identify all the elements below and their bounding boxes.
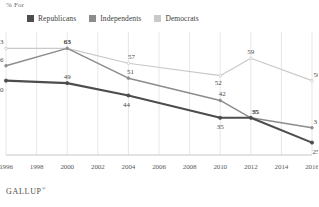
x-tick-label: 1996 [0, 163, 13, 171]
legend-label-independents: Independents [100, 14, 141, 23]
x-tick-label: 2008 [183, 163, 197, 171]
x-tick-label: 2002 [91, 163, 105, 171]
x-tick-label: 2010 [213, 163, 227, 171]
data-point [66, 82, 69, 85]
point-label: 50 [314, 71, 319, 79]
data-point [5, 47, 8, 50]
plot-area: 504944353525566351423531636357525950 [0, 28, 318, 163]
legend-item-democrats[interactable]: Democrats [154, 14, 198, 23]
x-tick-label: 2016 [305, 163, 318, 171]
point-label: 35 [217, 123, 225, 131]
point-label: 59 [247, 48, 255, 56]
point-label: 63 [64, 38, 72, 46]
data-point [219, 74, 222, 77]
x-tick-label: 1998 [30, 163, 44, 171]
point-label: 50 [0, 86, 4, 94]
legend-swatch-republicans [27, 15, 34, 22]
legend-item-independents[interactable]: Independents [89, 14, 141, 23]
data-point [311, 126, 314, 129]
data-point [219, 99, 222, 102]
gallup-wordmark: GALLUP [6, 187, 42, 196]
legend-item-republicans[interactable]: Republicans [27, 14, 76, 23]
point-label: 51 [127, 68, 135, 76]
point-label: 31 [314, 118, 319, 126]
point-label: 25 [313, 148, 319, 156]
data-point [311, 79, 314, 82]
chart-legend: Republicans Independents Democrats [27, 14, 212, 23]
chart-svg: 504944353525566351423531636357525950 [0, 28, 318, 163]
point-label: 56 [0, 56, 4, 64]
registered-mark-icon: ® [42, 186, 46, 191]
point-label: 63 [0, 38, 4, 46]
legend-swatch-democrats [154, 15, 161, 22]
point-label: 42 [219, 90, 227, 98]
data-point [66, 47, 69, 50]
x-tick-label: 2000 [60, 163, 74, 171]
point-label: 44 [123, 101, 131, 109]
gridlines [6, 32, 312, 155]
point-label: 57 [128, 53, 136, 61]
x-tick-label: 2004 [122, 163, 136, 171]
y-axis-title: % For [6, 1, 24, 9]
data-point [250, 57, 253, 60]
data-point [219, 116, 222, 119]
x-tick-label: 2006 [152, 163, 166, 171]
point-label: 35 [252, 108, 260, 116]
data-point [5, 64, 8, 67]
data-point [127, 62, 130, 65]
data-point [127, 94, 130, 97]
data-point [127, 77, 130, 80]
gallup-brand: GALLUP® [6, 186, 46, 196]
x-tick-label: 2014 [275, 163, 289, 171]
point-label: 52 [215, 79, 223, 87]
data-point [249, 116, 252, 119]
data-point [4, 79, 7, 82]
legend-swatch-independents [89, 15, 96, 22]
x-axis-labels: 1996199820002002200420062008201020122014… [0, 163, 318, 177]
chart-container: % For Republicans Independents Democrats… [0, 0, 318, 207]
data-point [310, 141, 313, 144]
legend-label-democrats: Democrats [165, 14, 198, 23]
x-tick-label: 2012 [244, 163, 258, 171]
point-label: 49 [64, 73, 72, 81]
legend-label-republicans: Republicans [38, 14, 76, 23]
